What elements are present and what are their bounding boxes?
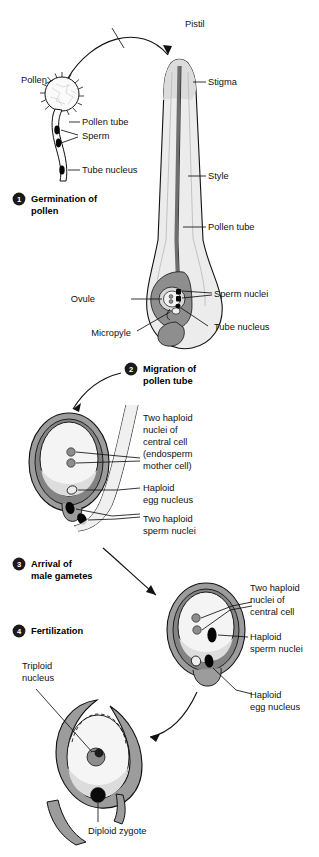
stage2-central-line1: Two haploid xyxy=(143,413,193,423)
sperm-nucleus-2 xyxy=(176,296,181,302)
stage2-central-line2: nuclei of xyxy=(143,425,178,435)
label-ovule: Ovule xyxy=(71,294,95,304)
step-2-label-line2: pollen tube xyxy=(143,376,193,386)
label-pollen-tube: Pollen tube xyxy=(82,117,129,127)
step-4-label-line1: Fertilization xyxy=(31,626,83,636)
step-badge-2: 2 xyxy=(125,363,138,376)
sperm-nucleus-1 xyxy=(176,289,181,295)
fertilization-diagram: Pollen Pistil Pollen tube Sperm Tube nuc… xyxy=(0,0,319,857)
label-pistil: Pistil xyxy=(185,19,205,29)
step-2-label-line1: Migration of xyxy=(143,364,197,374)
tube-nucleus-in-ovary xyxy=(175,304,180,308)
sperm-cell-1 xyxy=(54,126,59,135)
stage3-central-line1: Two haploid xyxy=(250,583,300,593)
label-micropyle: Micropyle xyxy=(91,328,131,338)
stage2-sperm-line1: Two haploid xyxy=(143,514,193,524)
label-pollen-tube-long: Pollen tube xyxy=(208,222,255,232)
sperm-cell-2 xyxy=(56,139,61,148)
step-1-label-line1: Germination of xyxy=(31,194,98,204)
stage3-egg-line1: Haploid xyxy=(250,690,282,700)
stage2-central-line4: (endosperm xyxy=(143,449,193,459)
step-1-label-line2: pollen xyxy=(31,206,59,216)
stage4-diploid-zygote xyxy=(91,788,106,803)
stage2-central-nucleus-1 xyxy=(67,448,75,456)
step-3-label-line1: Arrival of xyxy=(31,559,73,569)
label-tube-nucleus-2: Tube nucleus xyxy=(214,322,270,332)
label-tube-nucleus: Tube nucleus xyxy=(82,165,138,175)
step-3-label-line2: male gametes xyxy=(31,571,93,581)
stage4-zygote-label: Diploid zygote xyxy=(88,826,146,836)
label-stigma: Stigma xyxy=(208,77,238,87)
step-badge-1: 1 xyxy=(13,193,26,206)
label-pollen: Pollen xyxy=(21,75,47,85)
step-2-number: 2 xyxy=(129,365,133,374)
stage3-central-line2: nuclei of xyxy=(250,595,285,605)
stage2-egg-line1: Haploid xyxy=(143,483,175,493)
stage3-central-nucleus-1 xyxy=(192,614,200,622)
step-3-number: 3 xyxy=(17,560,21,569)
stage3-central-nucleus-2 xyxy=(193,626,201,634)
label-style: Style xyxy=(208,171,229,181)
stage2-egg-line2: egg nucleus xyxy=(143,495,193,505)
tube-nucleus-cell xyxy=(59,165,64,174)
stage4-triploid-core xyxy=(95,749,104,758)
step-badge-4: 4 xyxy=(13,625,26,638)
stage2-central-nucleus-2 xyxy=(67,459,75,467)
central-cell-nucleus-b xyxy=(169,300,173,304)
stage4-triploid-line2: nucleus xyxy=(22,673,54,683)
stage2-central-line3: central cell xyxy=(143,437,187,447)
label-sperm: Sperm xyxy=(82,131,110,141)
stage2-sperm-line2: sperm nuclei xyxy=(143,526,196,536)
stage3-egg-line2: egg nucleus xyxy=(250,702,300,712)
step-badge-3: 3 xyxy=(13,558,26,571)
stage3-sperm-line1: Haploid xyxy=(250,632,282,642)
central-cell-nucleus-a xyxy=(169,295,173,299)
label-sperm-nuclei: Sperm nuclei xyxy=(214,289,268,299)
egg-apparatus xyxy=(172,308,180,314)
stage2-central-line5: mother cell) xyxy=(143,461,192,471)
stage3-sperm-nucleus-1 xyxy=(207,628,216,643)
stage3-sperm-line2: sperm nuclei xyxy=(250,644,303,654)
stage4-triploid-line1: Triploid xyxy=(22,661,52,671)
stage3-central-line3: central cell xyxy=(250,607,294,617)
